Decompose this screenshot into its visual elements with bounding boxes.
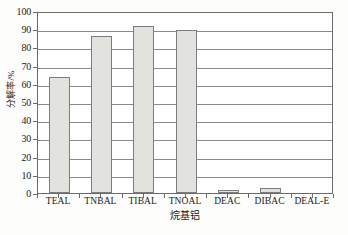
x-axis-tick-label: DIBAC bbox=[255, 196, 285, 207]
bar bbox=[49, 77, 70, 193]
bar bbox=[218, 190, 239, 193]
y-axis-tick-label: 20 bbox=[21, 153, 31, 163]
x-axis-title: 烷基铝 bbox=[37, 210, 333, 222]
y-axis-tick-label: 60 bbox=[21, 80, 31, 90]
y-axis-tick-label: 90 bbox=[21, 25, 31, 35]
x-axis-tick-label: TIBAL bbox=[128, 196, 156, 207]
y-axis-tick-group: 0102030405060708090100 bbox=[0, 12, 37, 194]
y-axis-tick-label: 0 bbox=[26, 189, 31, 199]
x-axis-tick-label: TNOAL bbox=[169, 196, 202, 207]
x-axis-boundary-tick-mark bbox=[333, 194, 334, 198]
y-axis-tick-label: 40 bbox=[21, 116, 31, 126]
x-axis-tick-label: DEAL-E bbox=[294, 196, 329, 207]
plot-area bbox=[37, 12, 333, 194]
bar bbox=[176, 30, 197, 193]
x-axis-tick-label: TNBAL bbox=[84, 196, 116, 207]
bar bbox=[91, 36, 112, 193]
x-axis-tick-label: TEAL bbox=[46, 196, 71, 207]
y-axis-tick-label: 70 bbox=[21, 62, 31, 72]
y-axis-tick-label: 10 bbox=[21, 171, 31, 181]
bar bbox=[260, 188, 281, 193]
y-axis-tick-label: 30 bbox=[21, 134, 31, 144]
x-axis-tick-label-group: TEALTNBALTIBALTNOALDEACDIBACDEAL-E bbox=[37, 196, 333, 210]
y-axis-tick-label: 80 bbox=[21, 43, 31, 53]
bar bbox=[133, 26, 154, 193]
y-axis-tick-label: 100 bbox=[17, 7, 31, 17]
bar-chart-figure: 分解率/% 0102030405060708090100 TEALTNBALTI… bbox=[0, 0, 348, 235]
y-axis-tick-label: 50 bbox=[21, 98, 31, 108]
x-axis-tick-label: DEAC bbox=[214, 196, 240, 207]
